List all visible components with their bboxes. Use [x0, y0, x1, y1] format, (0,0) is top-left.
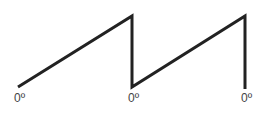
label-0-degrees-start: 0º [14, 92, 25, 104]
label-0-degrees-middle: 0º [128, 92, 139, 104]
label-0-degrees-end: 0º [241, 92, 252, 104]
wave-line [18, 16, 245, 89]
